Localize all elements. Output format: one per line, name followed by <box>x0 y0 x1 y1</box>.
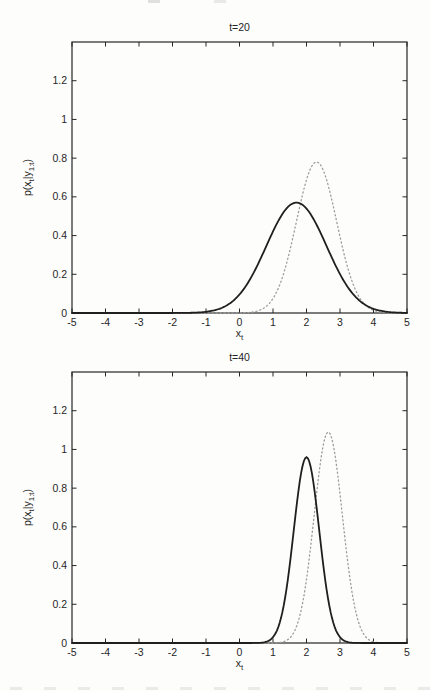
x-axis-label: xt <box>236 657 244 672</box>
plot-title: t=40 <box>229 351 250 363</box>
y-tick-label: 0.6 <box>52 520 67 532</box>
y-tick-label: 0.8 <box>52 482 67 494</box>
y-tick-label: 0.2 <box>52 268 67 280</box>
x-axis-label: xt <box>236 327 244 342</box>
x-tick-label: 5 <box>404 316 410 328</box>
y-tick-label: 0 <box>61 307 67 319</box>
y-axis-label: p(xt|y1:t) <box>21 489 36 526</box>
x-tick-label: -3 <box>134 646 143 658</box>
axes-box <box>72 42 407 313</box>
x-tick-label: 4 <box>371 316 377 328</box>
plot-title: t=20 <box>229 21 250 33</box>
x-tick-label: -2 <box>168 646 177 658</box>
y-tick-label: 0.6 <box>52 190 67 202</box>
x-tick-label: -2 <box>168 316 177 328</box>
figure-page: -5-4-3-2-101234500.20.40.60.811.2t=20xtp… <box>0 0 430 691</box>
y-tick-label: 1.2 <box>52 404 67 416</box>
y-tick-label: 1 <box>61 443 67 455</box>
x-tick-label: -5 <box>67 646 76 658</box>
x-tick-label: -1 <box>201 316 210 328</box>
y-tick-label: 1.2 <box>52 74 67 86</box>
y-tick-label: 0.2 <box>52 598 67 610</box>
x-tick-label: 2 <box>304 646 310 658</box>
x-tick-label: 3 <box>337 646 343 658</box>
x-tick-label: -1 <box>201 646 210 658</box>
y-tick-label: 0.4 <box>52 229 67 241</box>
x-tick-label: 2 <box>304 316 310 328</box>
x-tick-label: 1 <box>270 646 276 658</box>
axes-box <box>72 372 407 643</box>
x-tick-label: -3 <box>134 316 143 328</box>
y-tick-label: 0.8 <box>52 152 67 164</box>
x-tick-label: 5 <box>404 646 410 658</box>
subplot-t=20: -5-4-3-2-101234500.20.40.60.811.2t=20xtp… <box>21 21 410 342</box>
curve-dotted-posterior <box>72 432 407 643</box>
x-tick-label: 3 <box>337 316 343 328</box>
x-tick-label: -4 <box>101 646 110 658</box>
curve-solid-posterior <box>72 203 407 313</box>
x-tick-label: -5 <box>67 316 76 328</box>
x-tick-label: 4 <box>371 646 377 658</box>
x-tick-label: 1 <box>270 316 276 328</box>
curve-dotted-posterior <box>72 162 407 313</box>
x-tick-label: -4 <box>101 316 110 328</box>
y-tick-label: 0 <box>61 637 67 649</box>
y-tick-label: 0.4 <box>52 559 67 571</box>
y-axis-label: p(xt|y1:t) <box>21 159 36 196</box>
posterior-density-figure: -5-4-3-2-101234500.20.40.60.811.2t=20xtp… <box>0 0 430 691</box>
y-tick-label: 1 <box>61 113 67 125</box>
subplot-t=40: -5-4-3-2-101234500.20.40.60.811.2t=40xtp… <box>21 351 410 672</box>
